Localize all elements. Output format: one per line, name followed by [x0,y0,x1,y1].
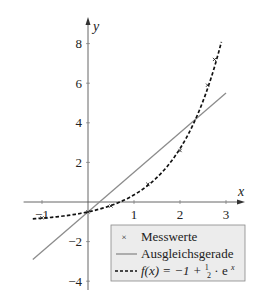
exponential-curve [33,42,222,219]
x-tick-label: −1 [35,207,49,222]
y-tick-label: −4 [68,274,82,289]
y-axis-arrow-icon [86,17,91,25]
x-axis-label: x [237,184,245,199]
y-axis-label: y [91,19,100,34]
y-tick-label: 8 [76,36,83,51]
x-tick-label: 3 [223,207,230,222]
legend: × Messwerte Ausgleichsgerade f(x) = −1 +… [111,225,245,281]
y-tick-label: −2 [68,234,82,249]
legend-marker-icon: × [121,232,126,242]
x-tick-label: 2 [177,207,184,222]
x-tick-label: 1 [131,207,138,222]
function-plot: −1123−4−22468 x y × Messwerte Ausgleichs… [0,0,264,304]
data-point-marker [213,58,216,61]
legend-label-ausgleichsgerade: Ausgleichsgerade [141,246,234,261]
y-tick-label: 6 [76,76,83,91]
x-axis-arrow-icon [237,200,245,205]
legend-label-messwerte: Messwerte [141,229,198,244]
y-tick-label: 2 [76,155,83,170]
y-tick-label: 4 [76,115,83,130]
